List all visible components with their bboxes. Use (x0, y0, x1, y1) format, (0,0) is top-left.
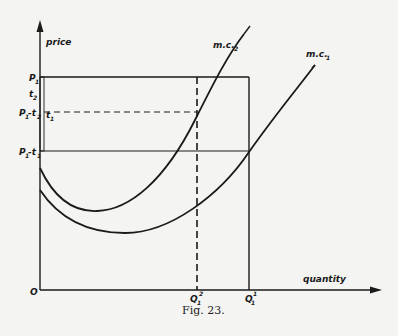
mc2-curve (40, 34, 244, 211)
mc2-leader-line (244, 26, 250, 34)
p1-minus-t2-label: P 1 -t 2 (19, 108, 41, 120)
svg-text:1: 1 (37, 152, 41, 159)
y-axis-label: price (45, 37, 71, 47)
svg-text:2: 2 (199, 290, 203, 297)
mc1-label: m.c. 1 (306, 49, 330, 61)
mc1-curve (40, 65, 315, 233)
svg-text:-t: -t (28, 108, 37, 118)
svg-text:m.c.: m.c. (306, 49, 328, 59)
svg-text:2: 2 (33, 94, 37, 101)
svg-text:2: 2 (37, 113, 41, 120)
svg-text:1: 1 (326, 54, 330, 61)
svg-text:-t: -t (28, 147, 37, 157)
svg-text:1: 1 (251, 299, 255, 306)
svg-text:m.c.: m.c. (213, 40, 235, 50)
t1-label: t 1 (46, 110, 54, 122)
economics-diagram: price quantity O m.c. 2 m.c. 1 P 1 t 2 P… (0, 0, 398, 336)
mc2-label: m.c. 2 (213, 40, 238, 52)
q1-1-label: Q 1 1 (245, 290, 257, 306)
p1-label: P 1 (29, 73, 39, 85)
figure-caption: Fig. 23. (182, 304, 225, 317)
origin-label: O (30, 287, 38, 297)
svg-text:1: 1 (50, 115, 54, 122)
x-axis-label: quantity (303, 274, 347, 284)
p1-minus-t1-label: P 1 -t 1 (19, 147, 41, 159)
svg-text:1: 1 (35, 78, 39, 85)
x-axis-arrowhead-icon (370, 287, 382, 294)
svg-text:2: 2 (234, 45, 238, 52)
svg-text:1: 1 (253, 290, 257, 297)
t2-label: t 2 (29, 89, 37, 101)
y-axis-arrowhead-icon (37, 20, 44, 32)
